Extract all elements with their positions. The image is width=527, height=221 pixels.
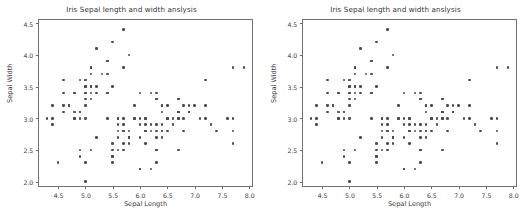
y-axis-tick-label: 3.0 <box>23 115 33 122</box>
scatter-point <box>343 155 346 158</box>
x-axis-label-2: Sepal Length <box>302 200 517 208</box>
scatter-point <box>51 117 54 120</box>
scatter-point <box>128 130 131 133</box>
scatter-point <box>144 130 147 133</box>
scatter-point <box>177 117 180 120</box>
scatter-point <box>354 98 357 101</box>
scatter-point <box>408 142 411 145</box>
scatter-point <box>122 28 125 31</box>
scatter-point <box>232 130 235 133</box>
scatter-point <box>419 92 422 95</box>
y-axis-tick-label: 4.0 <box>23 52 33 59</box>
scatter-point <box>204 117 207 120</box>
y-axis-label: Sepal Width <box>6 63 14 103</box>
scatter-point <box>348 98 351 101</box>
scatter-point <box>73 111 76 114</box>
page-title: Iris Sepal length and width anslysis <box>0 5 263 14</box>
scatter-point <box>62 104 65 107</box>
scatter-point <box>161 130 164 133</box>
scatter-point <box>414 168 417 171</box>
scatter-point <box>359 136 362 139</box>
scatter-point <box>375 155 378 158</box>
scatter-point <box>161 111 164 114</box>
scatter-point <box>84 117 87 120</box>
scatter-point <box>386 66 389 69</box>
scatter-point <box>122 142 125 145</box>
scatter-point <box>315 104 318 107</box>
scatter-point <box>359 92 362 95</box>
x-axis-tick: 7.5 <box>222 186 223 189</box>
scatter-point <box>392 130 395 133</box>
scatter-point <box>95 85 98 88</box>
scatter-point <box>386 142 389 145</box>
scatter-point <box>204 104 207 107</box>
scatter-point <box>468 79 471 82</box>
scatter-point <box>232 117 235 120</box>
scatter-point <box>79 117 82 120</box>
scatter-point <box>348 117 351 120</box>
scatter-point <box>215 130 218 133</box>
plot-area-2: 2.02.53.03.54.04.54.55.05.56.06.57.07.58… <box>302 19 517 187</box>
scatter-point <box>446 130 449 133</box>
scatter-point <box>370 60 373 63</box>
scatter-point <box>441 149 444 152</box>
scatter-point <box>84 98 87 101</box>
scatter-point <box>139 136 142 139</box>
scatter-point <box>106 92 109 95</box>
scatter-point <box>122 117 125 120</box>
y-axis-label-2: Sepal Width <box>270 63 278 103</box>
scatter-point <box>166 104 169 107</box>
scatter-point <box>204 79 207 82</box>
scatter-point <box>310 117 313 120</box>
scatter-point <box>381 117 384 120</box>
scatter-point <box>79 79 82 82</box>
scatter-point <box>111 41 114 44</box>
y-axis-tick: 3.5 <box>36 87 39 88</box>
scatter-point <box>468 117 471 120</box>
scatter-point <box>117 130 120 133</box>
scatter-point <box>155 149 158 152</box>
scatter-point <box>468 104 471 107</box>
chart-panel-left: Iris Sepal length and width anslysis Sep… <box>0 0 263 221</box>
scatter-point <box>90 66 93 69</box>
scatter-point <box>117 123 120 126</box>
scatter-point <box>425 104 428 107</box>
scatter-point <box>403 117 406 120</box>
scatter-point <box>354 92 357 95</box>
scatter-point <box>414 123 417 126</box>
scatter-point <box>188 111 191 114</box>
scatter-point <box>381 136 384 139</box>
y-axis-tick-label: 2.5 <box>23 147 33 154</box>
y-axis-tick: 3.5 <box>300 87 303 88</box>
scatter-point <box>150 92 153 95</box>
scatter-point <box>133 104 136 107</box>
x-axis-tick-label: 7.5 <box>482 192 492 199</box>
scatter-point <box>128 142 131 145</box>
scatter-point <box>210 123 213 126</box>
scatter-point <box>343 79 346 82</box>
y-axis-tick-label: 3.5 <box>287 84 297 91</box>
scatter-point <box>315 117 318 120</box>
x-axis-tick: 4.5 <box>58 186 59 189</box>
x-axis-tick-label: 7.5 <box>218 192 228 199</box>
y-axis-tick: 2.5 <box>300 150 303 151</box>
y-axis-tick: 2.0 <box>36 182 39 183</box>
scatter-point <box>354 149 357 152</box>
x-axis-tick: 7.5 <box>486 186 487 189</box>
scatter-point <box>62 79 65 82</box>
scatter-point <box>51 104 54 107</box>
scatter-point <box>359 47 362 50</box>
scatter-point <box>90 85 93 88</box>
y-axis-tick-label: 3.5 <box>23 84 33 91</box>
scatter-point <box>425 136 428 139</box>
scatter-point <box>354 85 357 88</box>
scatter-point <box>436 117 439 120</box>
scatter-point <box>172 117 175 120</box>
chart-panel-right: Iris Sepal length and width anslysis Sep… <box>264 0 527 221</box>
scatter-point <box>182 104 185 107</box>
scatter-point <box>436 123 439 126</box>
scatter-point <box>446 117 449 120</box>
x-axis-tick: 5.5 <box>377 186 378 189</box>
scatter-point <box>496 117 499 120</box>
y-axis-tick-label: 4.0 <box>287 52 297 59</box>
